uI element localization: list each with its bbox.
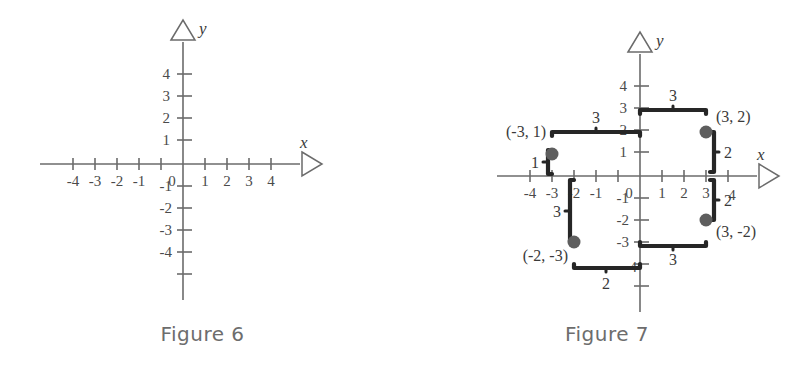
- brace-label: 1: [531, 154, 539, 171]
- figure-6-caption: Figure 6: [0, 322, 405, 346]
- y-axis-arrowhead-icon: [171, 20, 195, 40]
- x-axis-arrowhead-icon: [759, 164, 779, 188]
- brace-label: 3: [592, 109, 600, 126]
- point-label: (3, 2): [716, 108, 751, 126]
- x-tick-label: 3: [245, 173, 253, 189]
- y-axis-label: y: [654, 31, 664, 50]
- brace-label: 2: [724, 192, 732, 209]
- data-point: [568, 236, 581, 249]
- x-tick-label: 2: [223, 173, 231, 189]
- x-axis-label: x: [756, 145, 765, 164]
- y-axis-label: y: [197, 19, 207, 38]
- x-tick-label: -4: [67, 173, 80, 189]
- x-tick-label: -3: [89, 173, 102, 189]
- y-tick-label: 3: [163, 88, 171, 104]
- x-tick-label: -1: [590, 185, 603, 201]
- brace-label: 2: [602, 275, 610, 292]
- x-tick-label: 1: [658, 185, 666, 201]
- figure-7-container: -4 -3 -2 -1 0 1 2 3 4 4 3 2 1 -1 -2 -3 -…: [405, 0, 809, 378]
- figure-6-axes: [40, 42, 300, 300]
- y-tick-label: -1: [160, 178, 173, 194]
- y-tick-label: -3: [617, 234, 630, 250]
- y-tick-label: -2: [160, 200, 173, 216]
- data-point: [546, 148, 559, 161]
- x-tick-label: -4: [524, 185, 537, 201]
- x-tick-label: 1: [201, 173, 209, 189]
- y-axis-arrowhead-icon: [628, 32, 652, 52]
- y-tick-label: 2: [163, 110, 171, 126]
- x-axis-label: x: [299, 133, 308, 152]
- x-tick-label: -3: [546, 185, 559, 201]
- y-tick-label: -1: [617, 190, 630, 206]
- x-tick-label: -2: [111, 173, 124, 189]
- brace-label: 2: [724, 144, 732, 161]
- y-tick-label: 3: [620, 100, 628, 116]
- y-tick-label: -2: [617, 212, 630, 228]
- data-point: [700, 214, 713, 227]
- x-tick-label: 4: [267, 173, 275, 189]
- x-tick-label: 3: [702, 185, 710, 201]
- point-label: (-2, -3): [523, 247, 568, 265]
- y-tick-label: 4: [620, 78, 628, 94]
- figure-6-tick-labels: -4 -3 -2 -1 0 1 2 3 4 4 3 2 1 -1 -2 -3 -…: [67, 66, 276, 260]
- brace-label: 3: [553, 203, 561, 220]
- y-tick-label: 4: [163, 66, 171, 82]
- point-label: (-3, 1): [506, 123, 546, 141]
- y-tick-label: -4: [160, 244, 173, 260]
- brace-label: 3: [669, 251, 677, 268]
- y-tick-label: 1: [163, 132, 171, 148]
- figure-7-caption: Figure 7: [405, 322, 809, 346]
- x-tick-label: -1: [133, 173, 146, 189]
- x-axis-arrowhead-icon: [302, 152, 322, 176]
- y-tick-label: 1: [620, 144, 628, 160]
- data-point: [700, 126, 713, 139]
- x-tick-label: 2: [680, 185, 688, 201]
- y-tick-label: -3: [160, 222, 173, 238]
- point-label: (3, -2): [716, 223, 756, 241]
- brace-label: 3: [669, 87, 677, 104]
- figure-6-container: -4 -3 -2 -1 0 1 2 3 4 4 3 2 1 -1 -2 -3 -…: [0, 0, 405, 378]
